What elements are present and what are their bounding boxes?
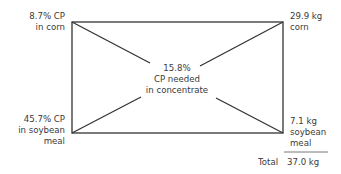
soybean-amount-name-cont: meal	[290, 138, 340, 149]
diagonal-br-segment	[216, 98, 283, 133]
soybean-cp-value: 45.7% CP	[0, 114, 65, 125]
soybean-cp-name-cont: meal	[0, 136, 65, 147]
soybean-cp-label: 45.7% CP in soybean meal	[0, 114, 65, 147]
corn-cp-label: 8.7% CP in corn	[0, 11, 65, 33]
diagonal-tr-segment	[200, 22, 283, 66]
total-value: 37.0 kg	[287, 157, 319, 168]
diagonal-bl-segment	[72, 97, 141, 133]
target-cp-label: 15.8% CP needed in concentrate	[127, 63, 227, 96]
target-cp-text-cont: in concentrate	[127, 85, 227, 96]
diagonal-tl-segment	[72, 22, 150, 63]
total-label: Total	[258, 157, 278, 168]
target-cp-value: 15.8%	[127, 63, 227, 74]
corn-amount-label: 29.9 kg corn	[290, 11, 340, 33]
soybean-amount-value: 7.1 kg	[290, 116, 340, 127]
corn-amount-value: 29.9 kg	[290, 11, 340, 22]
target-cp-text: CP needed	[127, 74, 227, 85]
soybean-amount-label: 7.1 kg soybean meal	[290, 116, 340, 149]
soybean-amount-name: soybean	[290, 127, 340, 138]
corn-cp-value: 8.7% CP	[0, 11, 65, 22]
soybean-cp-name: in soybean	[0, 125, 65, 136]
corn-cp-name: in corn	[0, 22, 65, 33]
corn-amount-name: corn	[290, 22, 340, 33]
